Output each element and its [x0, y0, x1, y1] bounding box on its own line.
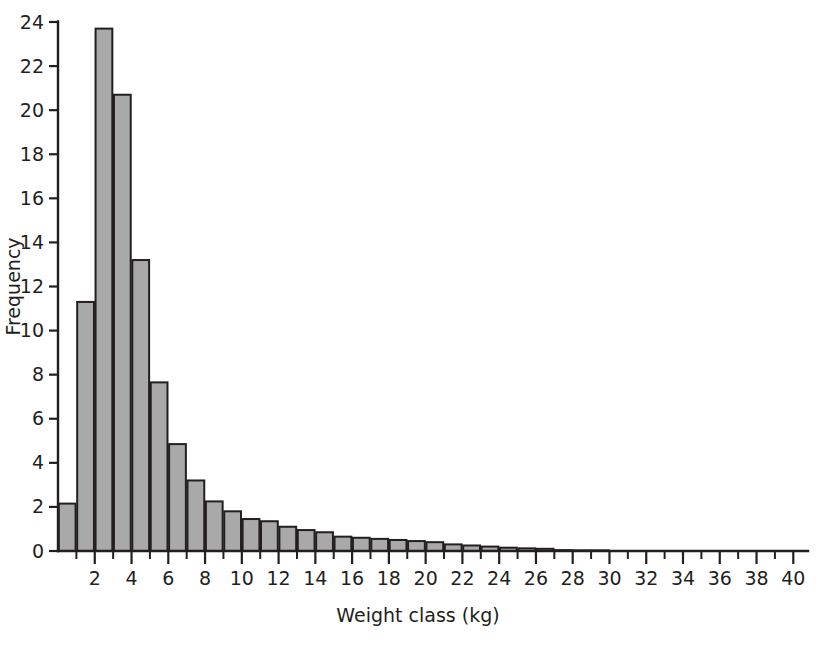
histogram-bar	[279, 527, 296, 551]
x-axis-tick-label: 38	[744, 567, 768, 589]
histogram-bar	[206, 501, 223, 551]
x-axis-tick-label: 2	[89, 567, 101, 589]
histogram-bar	[243, 519, 260, 551]
histogram-bar	[96, 29, 113, 551]
x-axis-tick-label: 12	[266, 567, 290, 589]
y-axis-title: Frequency	[2, 237, 24, 335]
y-axis-tick-label: 6	[32, 407, 44, 429]
histogram-bar	[261, 521, 278, 551]
histogram-bar	[77, 302, 94, 551]
histogram-bar	[151, 382, 168, 551]
y-axis-tick-label: 22	[20, 55, 44, 77]
x-axis-tick-label: 26	[524, 567, 548, 589]
y-axis-tick-label: 8	[32, 363, 44, 385]
chart-canvas: 0246810121416182022242468101214161820222…	[0, 0, 820, 649]
x-axis-tick-label: 6	[162, 567, 174, 589]
x-axis-tick-label: 14	[303, 567, 327, 589]
histogram-bar	[408, 541, 425, 551]
histogram-bar	[426, 542, 443, 551]
y-axis-tick-label: 24	[20, 11, 44, 33]
histogram-bar	[132, 260, 149, 551]
x-axis-tick-label: 28	[561, 567, 585, 589]
y-axis-tick-label: 2	[32, 495, 44, 517]
x-axis-title: Weight class (kg)	[336, 604, 499, 626]
x-axis-tick-label: 4	[125, 567, 137, 589]
histogram-bar	[169, 444, 186, 551]
histogram-bar	[187, 480, 204, 551]
x-axis-tick-label: 20	[414, 567, 438, 589]
histogram-bar	[390, 540, 407, 551]
x-axis-tick-label: 30	[597, 567, 621, 589]
x-axis-tick-label: 8	[199, 567, 211, 589]
histogram-bar	[298, 530, 315, 551]
y-axis-tick-label: 20	[20, 99, 44, 121]
y-axis-tick-label: 4	[32, 451, 44, 473]
histogram-bar	[335, 537, 352, 551]
histogram-bar	[59, 504, 76, 551]
x-axis-tick-label: 10	[230, 567, 254, 589]
x-axis-tick-label: 22	[450, 567, 474, 589]
y-axis-tick-label: 16	[20, 187, 44, 209]
histogram-figure: 0246810121416182022242468101214161820222…	[0, 0, 820, 649]
histogram-bar	[353, 538, 370, 551]
x-axis-tick-label: 18	[377, 567, 401, 589]
x-axis-tick-label: 24	[487, 567, 511, 589]
y-axis-tick-label: 0	[32, 540, 44, 562]
histogram-bar	[316, 532, 333, 551]
histogram-bar	[371, 539, 388, 551]
histogram-bar	[224, 511, 241, 551]
histogram-bar	[114, 95, 131, 551]
x-axis-tick-label: 40	[781, 567, 805, 589]
x-axis-tick-label: 32	[634, 567, 658, 589]
x-axis-tick-label: 36	[708, 567, 732, 589]
y-axis-tick-label: 18	[20, 143, 44, 165]
x-axis-tick-label: 16	[340, 567, 364, 589]
x-axis-tick-label: 34	[671, 567, 695, 589]
